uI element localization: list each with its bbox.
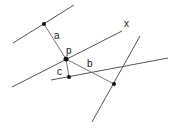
geometry-diagram: x p a b c xyxy=(0,0,180,132)
label-a: a xyxy=(54,30,60,41)
foot-point-c xyxy=(67,75,71,79)
foot-point-a xyxy=(42,22,46,26)
label-x: x xyxy=(124,18,129,29)
label-p: p xyxy=(66,45,72,56)
line-steep xyxy=(92,36,140,122)
label-b: b xyxy=(87,58,93,69)
segment-c xyxy=(66,59,69,77)
point-p xyxy=(64,57,69,62)
foot-point-b xyxy=(112,82,116,86)
label-c: c xyxy=(57,66,62,77)
